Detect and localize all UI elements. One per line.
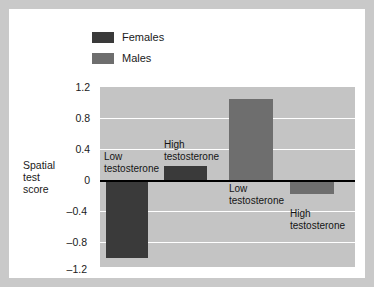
- bar-label-males-high: High testosterone: [290, 208, 345, 231]
- gridline-0.8: [100, 118, 355, 119]
- legend-label-females: Females: [122, 32, 164, 43]
- y-axis-label-line3: score: [23, 183, 55, 195]
- bar-label-males-high-line1: High: [290, 208, 345, 220]
- bar-females-high-testosterone: [164, 166, 207, 180]
- y-axis-label: Spatial test score: [23, 159, 55, 195]
- bar-label-females-high-line1: High: [164, 139, 219, 151]
- bar-males-high-testosterone: [290, 180, 334, 194]
- chart-card: Females Males 1.2 0.8 0.4 0 –0.4 –0.8 –1…: [9, 9, 365, 278]
- gridline-0.4: [100, 149, 355, 150]
- legend-item-females: Females: [92, 29, 164, 46]
- bar-label-males-high-line2: testosterone: [290, 220, 345, 232]
- bar-label-females-low: Low testosterone: [104, 151, 159, 174]
- bar-label-females-high-line2: testosterone: [164, 151, 219, 163]
- legend-swatch-females: [92, 32, 114, 43]
- legend-item-males: Males: [92, 50, 164, 67]
- bar-label-females-high: High testosterone: [164, 139, 219, 162]
- legend-swatch-males: [92, 53, 114, 64]
- bar-label-males-low: Low testosterone: [229, 183, 284, 206]
- y-tick-neg0.8: –0.8: [53, 237, 87, 248]
- y-tick-0: 0: [56, 175, 90, 186]
- zero-axis-line: [100, 180, 355, 182]
- y-tick-1.2: 1.2: [56, 82, 90, 93]
- y-axis-label-line1: Spatial: [23, 159, 55, 171]
- y-tick-neg0.4: –0.4: [53, 206, 87, 217]
- chart-legend: Females Males: [92, 29, 164, 71]
- y-tick-0.4: 0.4: [56, 144, 90, 155]
- bar-label-females-low-line1: Low: [104, 151, 159, 163]
- bar-males-low-testosterone: [229, 99, 273, 180]
- bar-label-males-low-line1: Low: [229, 183, 284, 195]
- y-axis-label-line2: test: [23, 171, 55, 183]
- bar-females-low-testosterone: [106, 180, 148, 258]
- bar-label-females-low-line2: testosterone: [104, 163, 159, 175]
- y-tick-0.8: 0.8: [56, 113, 90, 124]
- y-tick-neg1.2: –1.2: [53, 264, 87, 275]
- plot-area: Low testosterone High testosterone Low t…: [100, 87, 355, 267]
- legend-label-males: Males: [122, 53, 151, 64]
- bar-label-males-low-line2: testosterone: [229, 195, 284, 207]
